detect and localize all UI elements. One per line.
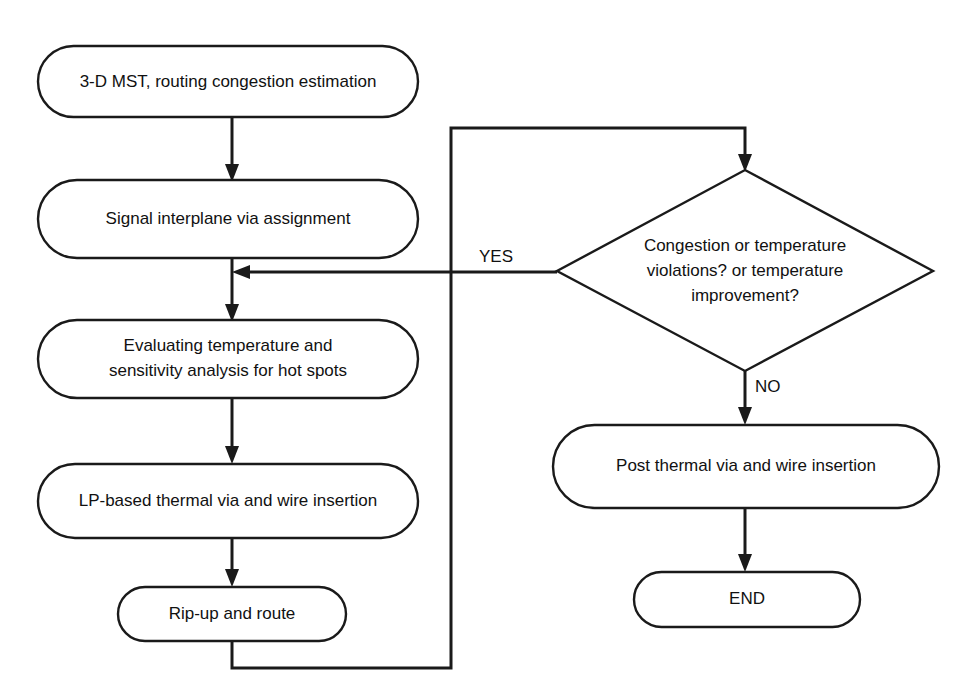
flowchart-svg: 3-D MST, routing congestion estimation S… <box>0 0 963 700</box>
node-evaluating-shape <box>38 320 418 398</box>
node-lp-based-label: LP-based thermal via and wire insertion <box>79 491 378 510</box>
node-end-label: END <box>729 589 765 608</box>
node-evaluating-label-line2: sensitivity analysis for hot spots <box>109 361 347 380</box>
flowchart-canvas: 3-D MST, routing congestion estimation S… <box>0 0 963 700</box>
node-post-thermal-label: Post thermal via and wire insertion <box>616 456 876 475</box>
node-rip-up[interactable]: Rip-up and route <box>118 587 346 641</box>
node-post-thermal[interactable]: Post thermal via and wire insertion <box>553 425 939 508</box>
edge-decision-no <box>738 370 752 425</box>
node-decision-label-line2: violations? or temperature <box>647 261 844 280</box>
edge-signal-to-evaluating <box>225 258 239 322</box>
edge-post-to-end <box>738 508 752 572</box>
node-decision[interactable]: Congestion or temperature violations? or… <box>557 170 933 371</box>
node-evaluating[interactable]: Evaluating temperature and sensitivity a… <box>38 320 418 398</box>
node-signal-interplane[interactable]: Signal interplane via assignment <box>38 180 418 258</box>
edge-evaluating-to-lp <box>225 398 239 464</box>
node-decision-label-line1: Congestion or temperature <box>644 236 846 255</box>
edge-start-to-signal <box>225 117 239 182</box>
node-end[interactable]: END <box>634 572 860 627</box>
node-rip-up-label: Rip-up and route <box>169 604 296 623</box>
edge-label-yes: YES <box>479 247 513 266</box>
edge-decision-yes <box>232 265 557 279</box>
edge-label-no: NO <box>755 377 781 396</box>
node-evaluating-label-line1: Evaluating temperature and <box>124 336 333 355</box>
node-lp-based[interactable]: LP-based thermal via and wire insertion <box>38 464 418 538</box>
node-start-mst[interactable]: 3-D MST, routing congestion estimation <box>38 46 418 117</box>
edge-lp-to-ripup <box>225 538 239 587</box>
node-decision-label-line3: improvement? <box>691 286 799 305</box>
node-start-mst-label: 3-D MST, routing congestion estimation <box>80 72 377 91</box>
node-signal-interplane-label: Signal interplane via assignment <box>106 209 351 228</box>
